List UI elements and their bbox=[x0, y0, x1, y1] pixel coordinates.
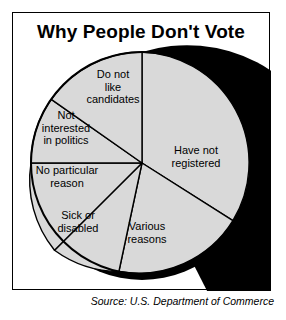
pie-chart-figure: Why People Don't Vote Have notre bbox=[0, 0, 286, 320]
source-attribution: Source: U.S. Department of Commerce bbox=[0, 295, 274, 307]
pie-svg bbox=[13, 13, 271, 291]
chart-frame: Why People Don't Vote Have notre bbox=[12, 12, 270, 290]
pie-plot-area: Have notregistered Variousreasons Sick o… bbox=[13, 13, 271, 291]
